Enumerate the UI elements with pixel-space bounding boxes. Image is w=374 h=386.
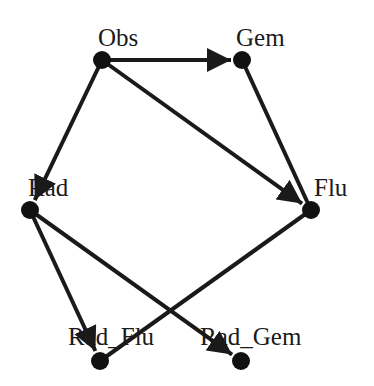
node-obs bbox=[93, 51, 111, 69]
node-label-rad-gem: Rad_Gem bbox=[200, 323, 302, 350]
edges-layer bbox=[30, 60, 311, 361]
node-label-flu: Flu bbox=[314, 174, 348, 201]
node-flu bbox=[302, 201, 320, 219]
node-rad-gem bbox=[232, 352, 250, 370]
node-label-gem: Gem bbox=[236, 24, 285, 51]
dag-diagram: ObsGemRadFluRad_FluRad_Gem bbox=[0, 0, 374, 386]
node-rad-flu bbox=[91, 352, 109, 370]
node-label-rad-flu: Rad_Flu bbox=[68, 323, 155, 350]
node-gem bbox=[233, 51, 251, 69]
node-label-rad: Rad bbox=[28, 174, 69, 201]
node-rad bbox=[21, 201, 39, 219]
edge-obs-to-flu bbox=[102, 60, 302, 204]
node-label-obs: Obs bbox=[98, 24, 138, 51]
